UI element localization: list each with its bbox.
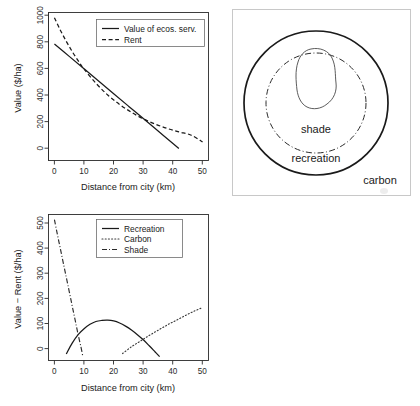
legend-label: Carbon [124,234,152,244]
x-tick-label: 50 [198,167,208,176]
series-carbon [123,308,203,354]
x-tick-label: 0 [52,367,57,376]
value-vs-distance-chart: 0 200 400 600 800 1000 Value ($/ha) 0 [0,0,222,205]
y-axis-title: Value ($/ha) [13,63,23,112]
x-tick-label: 20 [109,367,119,376]
x-tick-label: 20 [109,167,119,176]
value-minus-rent-chart: 0 100 200 300 400 500 Value − Rent ($/ha… [0,205,222,405]
x-axis-group: 0 10 20 30 40 50 Distance from city (km) [52,361,207,394]
series-recreation [66,320,159,356]
x-axis-title: Distance from city (km) [81,383,175,393]
x-tick-label: 10 [79,167,89,176]
concentric-zones-diagram: shade recreation carbon [228,4,418,206]
diagram-svg: shade recreation carbon [228,4,418,206]
legend-label: Recreation [124,224,165,234]
legend: Value of ecos. serv. Rent [97,20,205,47]
y-tick-label: 400 [36,241,45,255]
x-tick-label: 40 [168,167,178,176]
y-tick-label: 100 [36,316,45,330]
x-tick-marks [54,361,202,365]
figure-container: 0 200 400 600 800 1000 Value ($/ha) 0 [0,0,420,406]
recreation-label: recreation [292,152,341,164]
x-tick-label: 40 [168,367,178,376]
legend: Recreation Carbon Shade [97,220,183,258]
legend-label: Rent [124,35,142,45]
shade-label: shade [301,123,331,135]
y-tick-label: 300 [36,266,45,280]
y-tick-label: 200 [36,114,45,128]
legend-label: Value of ecos. serv. [124,24,196,34]
x-tick-label: 50 [198,367,208,376]
y-tick-label: 1000 [36,6,45,25]
bottom-left-plot-svg: 0 100 200 300 400 500 Value − Rent ($/ha… [0,205,222,405]
diagram-frame [233,10,411,196]
y-tick-label: 400 [36,88,45,102]
y-tick-label: 600 [36,61,45,75]
y-tick-label: 0 [36,346,45,351]
top-left-plot-svg: 0 200 400 600 800 1000 Value ($/ha) 0 [0,0,222,205]
paper-smudge [380,188,388,194]
y-axis-group: 0 100 200 300 400 500 Value − Rent ($/ha… [13,216,48,351]
series-value-of-ecos-serv [54,44,178,149]
y-tick-label: 800 [36,35,45,49]
x-tick-label: 0 [52,167,57,176]
carbon-label: carbon [363,174,397,186]
x-tick-marks [54,161,202,165]
y-tick-label: 200 [36,291,45,305]
x-axis-title: Distance from city (km) [81,182,175,192]
x-tick-label: 30 [139,367,149,376]
legend-label: Shade [124,245,149,255]
y-tick-label: 500 [36,216,45,230]
x-tick-label: 30 [139,167,149,176]
x-tick-label: 10 [79,367,89,376]
x-axis-group: 0 10 20 30 40 50 Distance from city (km) [52,161,207,193]
y-axis-group: 0 200 400 600 800 1000 Value ($/ha) [13,6,48,161]
y-axis-title: Value − Rent ($/ha) [13,249,23,328]
y-tick-label: 0 [36,145,45,150]
series-shade [54,220,82,357]
